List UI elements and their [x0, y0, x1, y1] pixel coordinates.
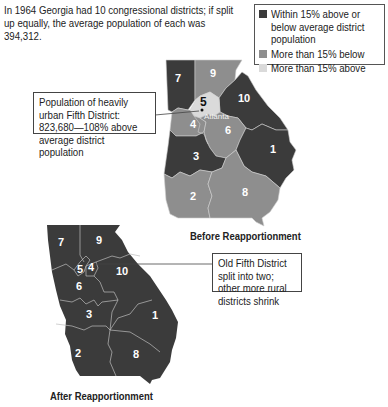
svg-text:9: 9: [210, 67, 216, 79]
svg-text:5: 5: [77, 263, 83, 275]
after-map-title: After Reapportionment: [50, 390, 153, 402]
svg-text:4: 4: [88, 261, 95, 273]
svg-text:2: 2: [190, 190, 196, 202]
svg-text:7: 7: [175, 72, 181, 84]
before-map: [164, 60, 296, 226]
after-callout: Old Fifth District split into two; other…: [212, 253, 302, 292]
svg-text:1: 1: [152, 309, 158, 321]
svg-text:6: 6: [76, 280, 82, 292]
svg-text:5: 5: [200, 95, 207, 109]
svg-text:6: 6: [225, 124, 231, 136]
svg-text:7: 7: [58, 236, 64, 248]
after-callout-text: Old Fifth District split into two; other…: [218, 257, 290, 307]
svg-text:2: 2: [75, 347, 81, 359]
svg-text:1: 1: [270, 143, 276, 155]
svg-text:8: 8: [133, 348, 139, 360]
before-callout: Population of heavily urban Fifth Distri…: [33, 92, 156, 134]
svg-text:Atlanta: Atlanta: [204, 112, 229, 121]
before-district-7: [166, 60, 195, 112]
svg-text:8: 8: [242, 186, 248, 198]
svg-text:3: 3: [193, 150, 199, 162]
before-map-title: Before Reapportionment: [190, 230, 301, 242]
before-callout-text: Population of heavily urban Fifth Distri…: [39, 96, 141, 159]
svg-text:3: 3: [86, 308, 92, 320]
after-map: [47, 225, 178, 384]
svg-text:10: 10: [238, 92, 250, 104]
svg-text:4: 4: [190, 118, 197, 130]
svg-text:10: 10: [116, 265, 128, 277]
maps-svg: 7 9 10 5 Atlanta 4 6 1 3 2 8: [0, 0, 388, 407]
svg-text:9: 9: [96, 234, 102, 246]
